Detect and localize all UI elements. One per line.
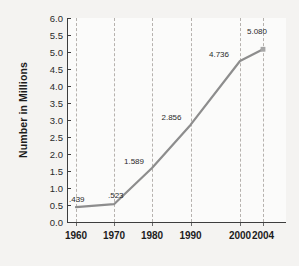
- y-tick-mark: [67, 35, 71, 36]
- y-tick-mark: [67, 52, 71, 53]
- data-point-label: 2.856: [162, 113, 182, 122]
- y-tick-mark: [67, 154, 71, 155]
- data-point-label: .523: [108, 191, 124, 200]
- data-point-label: 4.736: [209, 50, 229, 59]
- y-tick-mark: [67, 188, 71, 189]
- y-tick-mark: [67, 18, 71, 19]
- y-tick-mark: [67, 222, 71, 223]
- data-point-label: .439: [69, 195, 85, 204]
- data-point-label: 1.589: [124, 157, 144, 166]
- y-tick-mark: [67, 103, 71, 104]
- y-tick-mark: [67, 205, 71, 206]
- y-tick-mark: [67, 137, 71, 138]
- y-tick-mark: [67, 171, 71, 172]
- data-series-line: [0, 0, 299, 266]
- data-point-marker: [261, 47, 266, 52]
- data-point-label: 5.080: [247, 27, 267, 36]
- y-tick-mark: [67, 86, 71, 87]
- chart-figure: Number in Millions 6.05.55.04.54.03.53.0…: [0, 0, 299, 266]
- y-tick-mark: [67, 120, 71, 121]
- y-tick-mark: [67, 69, 71, 70]
